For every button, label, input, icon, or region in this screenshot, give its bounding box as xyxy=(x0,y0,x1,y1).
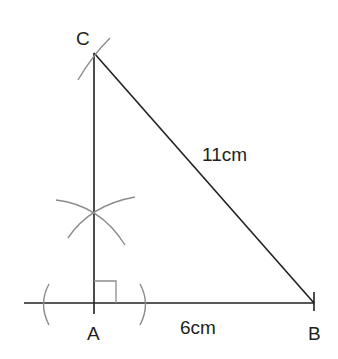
vertex-label-a: A xyxy=(87,323,100,344)
vertex-label-b: B xyxy=(308,323,321,344)
vertex-label-c: C xyxy=(76,28,90,49)
side-length-bc: 11cm xyxy=(202,144,247,165)
hypotenuse-cb xyxy=(94,53,314,303)
construction-arc-right xyxy=(140,284,146,325)
construction-arc-left xyxy=(44,284,50,325)
right-angle-marker xyxy=(94,281,116,303)
construction-arc-from-left xyxy=(56,200,125,245)
triangle-construction-diagram: C A B 6cm 11cm xyxy=(0,0,338,359)
side-length-ab: 6cm xyxy=(180,317,216,338)
